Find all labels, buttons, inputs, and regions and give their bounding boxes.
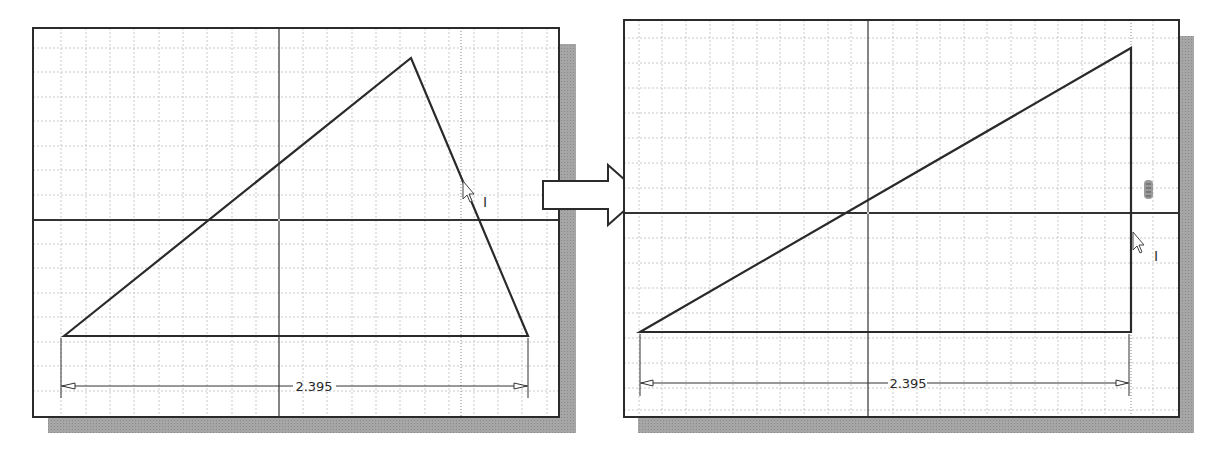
cursor-label: I	[1154, 248, 1158, 264]
dimension-value: 2.395	[295, 379, 332, 394]
sketch-panel-after: 2.395 I	[624, 20, 1194, 433]
sketch-panel-before: 2.395 I	[33, 28, 576, 433]
dimension-value: 2.395	[889, 376, 926, 391]
cursor-label: I	[483, 194, 487, 210]
sketch-illustration: 2.395 I	[0, 0, 1220, 452]
sketch-canvas[interactable]	[624, 20, 1179, 417]
origin-point	[867, 212, 869, 214]
vertical-constraint-icon	[1144, 180, 1153, 199]
origin-point	[278, 219, 280, 221]
